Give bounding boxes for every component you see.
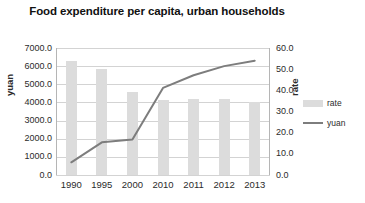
y-axis-secondary-tick-label: 50.0 [276, 65, 316, 74]
y-axis-primary-tick-label: 0.0 [6, 171, 52, 180]
plot-area [56, 48, 270, 175]
legend-bar-swatch-icon [303, 100, 323, 107]
y-axis-secondary-tick-label: 0.0 [276, 171, 316, 180]
x-axis-tick-label-2010: 2010 [148, 179, 179, 190]
chart-container: Food expenditure per capita, urban house… [0, 0, 365, 203]
x-axis-ticks: 1990199520002010201120122013 [56, 179, 270, 193]
x-axis-tick-label-1990: 1990 [56, 179, 87, 190]
x-axis-tick-label-2011: 2011 [178, 179, 209, 190]
legend-label-yuan: yuan [327, 119, 345, 128]
y-axis-primary-tick-label: 7000.0 [6, 44, 52, 53]
y-axis-primary-tick-label: 2000.0 [6, 134, 52, 143]
legend-item-yuan: yuan [303, 115, 361, 131]
line-series-path [56, 48, 270, 175]
y-axis-primary-ticks: 0.01000.02000.03000.04000.05000.06000.07… [6, 48, 52, 175]
x-axis-tick-label-2012: 2012 [209, 179, 240, 190]
y-axis-secondary-tick-label: 10.0 [276, 149, 316, 158]
chart-legend: rate yuan [303, 95, 361, 135]
y-axis-secondary-tick-label: 60.0 [276, 44, 316, 53]
y-axis-primary-tick-label: 4000.0 [6, 98, 52, 107]
legend-label-rate: rate [327, 99, 342, 108]
x-axis-tick-label-2013: 2013 [239, 179, 270, 190]
x-axis-tick-label-2000: 2000 [117, 179, 148, 190]
y-axis-primary-tick-label: 6000.0 [6, 62, 52, 71]
y-axis-secondary-title: rate [289, 79, 300, 96]
y-axis-primary-title: yuan [4, 74, 15, 96]
line-series-yuan [56, 48, 270, 175]
gridline [56, 175, 270, 176]
chart-title: Food expenditure per capita, urban house… [28, 4, 286, 19]
x-axis-tick-label-1995: 1995 [87, 179, 118, 190]
y-axis-primary-tick-label: 3000.0 [6, 116, 52, 125]
legend-line-swatch-icon [303, 122, 323, 124]
y-axis-primary-tick-label: 1000.0 [6, 152, 52, 161]
legend-item-rate: rate [303, 95, 361, 111]
